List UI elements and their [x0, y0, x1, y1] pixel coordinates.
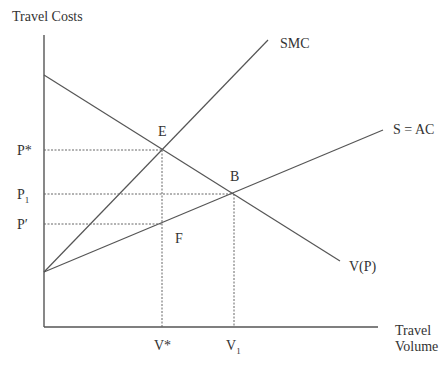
- p-prime-label: P′: [17, 217, 28, 232]
- diagram-canvas: Travel Costs Travel Volume SMC S = AC V(…: [0, 0, 443, 365]
- x-axis-label-line2: Volume: [395, 339, 438, 354]
- ac-curve: [44, 130, 383, 272]
- v1-label: V1: [226, 338, 241, 356]
- y-axis-label: Travel Costs: [12, 9, 83, 24]
- p1-label-sub: 1: [25, 195, 30, 205]
- v1-label-sub: 1: [236, 346, 241, 356]
- x-axis-label-line1: Travel: [395, 323, 431, 338]
- p-star-label: P*: [17, 143, 32, 158]
- point-e-label: E: [158, 124, 167, 139]
- v1-label-base: V: [226, 338, 236, 353]
- point-f-label: F: [175, 231, 183, 246]
- demand-label: V(P): [349, 259, 377, 275]
- ac-label: S = AC: [393, 122, 434, 137]
- p1-label: P1: [17, 187, 29, 205]
- point-b-label: B: [230, 169, 239, 184]
- v-star-label: V*: [154, 338, 171, 353]
- demand-curve: [44, 75, 340, 261]
- smc-label: SMC: [280, 36, 310, 51]
- p1-label-base: P: [17, 187, 25, 202]
